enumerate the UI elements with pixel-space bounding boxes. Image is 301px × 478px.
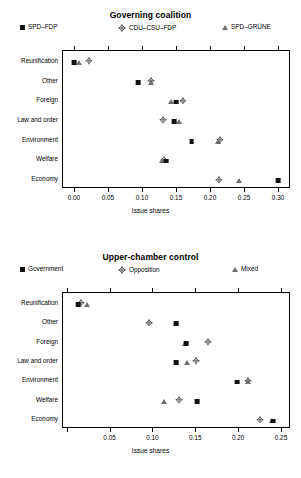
legend-item-square[interactable]: SPD–FDP — [20, 24, 57, 30]
x-tick-top — [110, 288, 111, 292]
plot-area-top: 0.000.050.100.150.200.250.30Reunificatio… — [62, 50, 290, 188]
x-tick-label: 0.05 — [103, 434, 115, 441]
marker-diamond-crosshair-icon — [145, 319, 153, 327]
x-tick-bottom — [195, 428, 196, 432]
x-tick-bottom — [278, 188, 279, 192]
x-tick-bottom — [110, 428, 111, 432]
data-point — [159, 110, 167, 128]
legend-item-triangle[interactable]: Mixed — [232, 266, 258, 272]
marker-triangle-icon — [176, 119, 182, 124]
marker-triangle-icon — [148, 80, 154, 85]
x-tick-top — [176, 46, 177, 50]
y-axis-label-welfare: Welfare — [2, 395, 58, 402]
legend-item-square[interactable]: Government — [20, 266, 63, 272]
data-point — [172, 110, 177, 128]
data-point — [276, 169, 281, 187]
marker-triangle-icon — [236, 178, 242, 183]
x-axis-title-bottom: Issue shares — [0, 447, 301, 454]
x-tick-top — [152, 288, 153, 292]
x-tick-top — [244, 46, 245, 50]
legend-label: Mixed — [241, 266, 258, 272]
x-tick-bottom — [281, 428, 282, 432]
marker-square-icon — [174, 321, 179, 326]
marker-square-icon — [174, 100, 179, 105]
data-point — [85, 51, 93, 69]
x-tick-label: 0.30 — [272, 194, 284, 201]
x-tick-label: 0.20 — [204, 194, 216, 201]
chart-title-bottom: Upper-chamber control — [0, 252, 301, 262]
x-tick-bottom — [108, 188, 109, 192]
legend-item-diamond[interactable]: Opposition — [118, 266, 160, 274]
x-axis-title-top: Issue shares — [0, 207, 301, 214]
x-tick-bottom — [74, 188, 75, 192]
y-axis-label-economy: Economy — [2, 415, 58, 422]
x-tick-label: 0.05 — [102, 194, 114, 201]
data-point — [215, 130, 221, 148]
y-axis-label-other: Other — [2, 76, 58, 83]
marker-diamond-crosshair-icon — [159, 116, 167, 124]
marker-triangle-icon — [215, 139, 221, 144]
x-tick-top — [210, 46, 211, 50]
x-tick-bottom — [210, 188, 211, 192]
plot-area-bottom: 0.050.100.150.200.25ReunificationOtherFo… — [62, 292, 290, 428]
data-point — [183, 332, 188, 350]
x-tick-top — [278, 46, 279, 50]
data-point — [175, 390, 183, 408]
x-tick-label: 0.15 — [170, 194, 182, 201]
marker-square-icon — [75, 302, 80, 307]
y-axis-label-reunification: Reunification — [2, 56, 58, 63]
data-point — [184, 351, 190, 369]
legend-bottom: GovernmentOppositionMixed — [0, 266, 301, 278]
marker-diamond-crosshair-icon — [118, 266, 126, 274]
marker-diamond-crosshair-icon — [118, 24, 126, 32]
marker-diamond-crosshair-icon — [175, 396, 183, 404]
x-tick-top — [281, 288, 282, 292]
marker-square-icon — [276, 178, 281, 183]
legend-label: CDU–CSU–FDP — [129, 25, 176, 31]
marker-triangle-icon — [76, 60, 82, 65]
marker-square-icon — [72, 60, 77, 65]
data-point — [236, 169, 242, 187]
legend-label: Opposition — [129, 267, 160, 273]
marker-diamond-crosshair-icon — [179, 97, 187, 105]
data-point — [179, 90, 187, 108]
marker-square-icon — [195, 399, 200, 404]
data-point — [215, 169, 223, 187]
x-tick-top — [108, 46, 109, 50]
marker-square-icon — [164, 159, 169, 164]
x-tick-top — [195, 288, 196, 292]
marker-triangle-icon — [245, 379, 251, 384]
data-point — [192, 351, 200, 369]
legend-item-triangle[interactable]: SPD–GRÜNE — [222, 24, 271, 30]
y-axis-label-other: Other — [2, 318, 58, 325]
marker-square-icon — [136, 80, 141, 85]
marker-diamond-crosshair-icon — [204, 338, 212, 346]
data-point — [189, 130, 194, 148]
data-point — [76, 51, 82, 69]
data-point — [257, 409, 265, 427]
legend-label: SPD–GRÜNE — [231, 24, 271, 30]
marker-square-icon — [189, 139, 194, 144]
y-axis-label-reunification: Reunification — [2, 298, 58, 305]
chart-title-top: Governing coalition — [0, 10, 301, 20]
y-axis-label-foreign: Foreign — [2, 96, 58, 103]
panel-upper-chamber-control: Upper-chamber control GovernmentOppositi… — [0, 240, 301, 478]
marker-square-icon — [235, 380, 240, 385]
data-point — [75, 293, 80, 311]
x-tick-label: 0.25 — [275, 434, 287, 441]
marker-triangle-icon — [184, 360, 190, 365]
x-tick-top — [142, 46, 143, 50]
data-point — [271, 409, 276, 427]
x-tick-label: 0.10 — [136, 194, 148, 201]
data-point — [161, 390, 167, 408]
x-tick-label: 0.10 — [146, 434, 158, 441]
marker-square-icon — [174, 360, 179, 365]
marker-triangle-icon — [222, 25, 228, 30]
legend-item-diamond[interactable]: CDU–CSU–FDP — [118, 24, 176, 32]
marker-square-icon — [20, 25, 25, 30]
marker-diamond-crosshair-icon — [257, 416, 265, 424]
data-point — [174, 90, 179, 108]
data-point — [84, 293, 90, 311]
data-point — [145, 312, 153, 330]
x-tick-bottom — [67, 428, 68, 432]
